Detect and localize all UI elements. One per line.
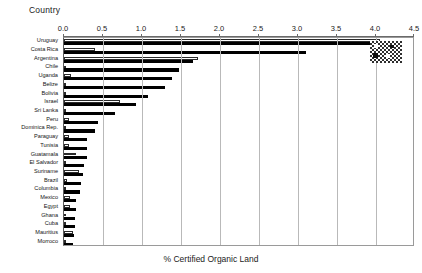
- gridline: [337, 38, 338, 245]
- bar-row: [64, 55, 413, 64]
- y-category-label: Costa Rica: [31, 47, 58, 53]
- bar-row: [64, 238, 413, 246]
- bar-filled: [64, 86, 165, 89]
- y-category-label: Mexico: [40, 195, 58, 201]
- x-tick-label: 0.0: [58, 24, 68, 33]
- bar-filled: [64, 234, 74, 237]
- bar-filled: [64, 225, 75, 228]
- bar-row: [64, 160, 413, 169]
- y-axis-category-labels: UruguayCosta RicaArgentinaChileUgandaBel…: [0, 37, 61, 246]
- bar-chart: Country 0.00.51.01.52.02.53.03.54.04.5 U…: [0, 0, 422, 273]
- bar-row: [64, 212, 413, 221]
- x-tick-label: 4.0: [370, 24, 380, 33]
- y-category-label: Brazil: [44, 178, 58, 184]
- bar-filled: [64, 68, 179, 71]
- gridline: [103, 38, 104, 245]
- y-category-label: Morroco: [37, 239, 58, 245]
- bar-row: [64, 99, 413, 108]
- bar-row: [64, 221, 413, 230]
- bar-row: [64, 151, 413, 160]
- y-category-label: Mauritius: [35, 230, 58, 236]
- y-category-label: Tunisia: [40, 143, 58, 149]
- bar-filled: [64, 199, 76, 202]
- y-category-label: Peru: [46, 117, 58, 123]
- y-category-label: Belize: [43, 82, 58, 88]
- x-tick-label: 3.0: [292, 24, 302, 33]
- bar-row: [64, 125, 413, 134]
- bar-filled: [64, 217, 75, 220]
- bar-filled: [64, 121, 98, 124]
- legend-pattern-swatch: [370, 41, 402, 63]
- gridline: [181, 38, 182, 245]
- x-tick-label: 2.5: [253, 24, 263, 33]
- bar-row: [64, 143, 413, 152]
- y-category-label: Dominica Rep.: [21, 126, 58, 132]
- y-category-label: Columbia: [34, 187, 58, 193]
- x-axis-title: % Certified Organic Land: [0, 254, 422, 264]
- gridline: [376, 38, 377, 245]
- bar-row: [64, 203, 413, 212]
- y-category-label: Sri Lanka: [34, 108, 58, 114]
- bar-filled: [64, 147, 87, 150]
- y-category-label: Israel: [44, 100, 58, 106]
- y-category-label: Cuba: [45, 221, 58, 227]
- gridline: [298, 38, 299, 245]
- plot-area: [63, 37, 414, 246]
- gridline: [142, 38, 143, 245]
- bar-filled: [64, 103, 136, 106]
- chart-y-axis-title: Country: [29, 5, 60, 15]
- bar-row: [64, 108, 413, 117]
- bar-row: [64, 195, 413, 204]
- bar-filled: [64, 77, 172, 80]
- bar-row: [64, 64, 413, 73]
- y-category-label: Paraguay: [34, 134, 58, 140]
- bar-filled: [64, 182, 81, 185]
- bar-row: [64, 38, 413, 47]
- bar-row: [64, 47, 413, 56]
- bar-rows: [64, 38, 413, 245]
- x-tick-label: 1.5: [175, 24, 185, 33]
- bar-row: [64, 169, 413, 178]
- x-tick-label: 1.0: [136, 24, 146, 33]
- x-tick-label: 4.5: [409, 24, 419, 33]
- bar-row: [64, 186, 413, 195]
- bar-row: [64, 134, 413, 143]
- y-category-label: Argentina: [34, 56, 58, 62]
- bar-filled: [64, 208, 76, 211]
- x-tick-label: 3.5: [331, 24, 341, 33]
- gridline: [220, 38, 221, 245]
- y-category-label: Egypt: [44, 204, 58, 210]
- y-category-label: Uganda: [38, 73, 58, 79]
- bar-filled: [64, 51, 306, 54]
- bar-row: [64, 177, 413, 186]
- y-category-label: El Salvador: [29, 160, 58, 166]
- bar-filled: [64, 243, 73, 246]
- y-category-label: Guatamala: [31, 152, 58, 158]
- bar-filled: [64, 190, 80, 193]
- bar-filled: [64, 138, 87, 141]
- y-category-label: Suriname: [34, 169, 58, 175]
- y-category-label: Ghana: [41, 213, 58, 219]
- bar-row: [64, 90, 413, 99]
- bar-filled: [64, 156, 87, 159]
- y-category-label: Bolivia: [42, 91, 58, 97]
- bar-filled: [64, 164, 84, 167]
- y-category-label: Chile: [45, 65, 58, 71]
- gridline: [259, 38, 260, 245]
- bar-row: [64, 116, 413, 125]
- y-category-label: Uruguay: [37, 39, 58, 45]
- bar-row: [64, 82, 413, 91]
- x-tick-label: 0.5: [97, 24, 107, 33]
- bar-row: [64, 73, 413, 82]
- bar-filled: [64, 60, 193, 63]
- bar-filled: [64, 95, 148, 98]
- x-tick-label: 2.0: [214, 24, 224, 33]
- bar-row: [64, 230, 413, 239]
- bar-filled: [64, 129, 95, 132]
- bar-filled: [64, 173, 83, 176]
- bar-filled: [64, 112, 115, 115]
